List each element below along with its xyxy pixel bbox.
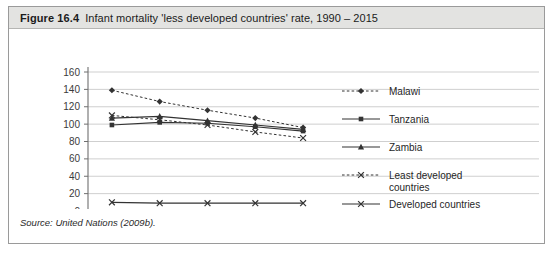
data-point-marker [252,115,258,121]
y-tick-label: 0 [74,206,80,210]
y-tick-label: 80 [69,136,81,147]
y-tick-label: 120 [63,101,80,112]
data-point-marker [300,135,306,141]
legend-label: countries [389,182,430,193]
data-point-marker [109,87,115,93]
axes [84,67,329,209]
figure-body: 020406080100120140160 1990 –19951995 –20… [9,29,544,243]
y-tick-label: 40 [69,171,81,182]
legend-label: Tanzania [389,114,429,125]
y-axis-tick-labels: 020406080100120140160 [63,67,80,210]
legend-label: Least developed [389,170,462,181]
figure-header: Figure 16.4 Infant mortality 'less devel… [9,7,544,29]
y-tick-label: 100 [63,119,80,130]
y-tick-label: 160 [63,67,80,78]
chart-svg: 020406080100120140160 1990 –19951995 –20… [9,29,546,209]
data-point-marker [110,123,115,128]
data-series [109,87,306,206]
source-note: Source: United Nations (2009b). [20,217,156,228]
figure-number: Figure 16.4 [20,12,79,24]
y-tick-label: 20 [69,188,81,199]
legend-label: Malawi [389,86,420,97]
data-point-marker [359,117,364,122]
data-point-marker [157,98,163,104]
data-point-marker [358,88,364,94]
figure-caption: Infant mortality 'less developed countri… [85,12,378,24]
y-tick-label: 140 [63,84,80,95]
figure-container: Figure 16.4 Infant mortality 'less devel… [8,6,545,244]
line-chart: 020406080100120140160 1990 –19951995 –20… [9,29,546,209]
gridlines [88,72,539,209]
data-point-marker [204,107,210,113]
y-tick-label: 60 [69,153,81,164]
legend-label: Developed countries [389,199,480,209]
legend-label: Zambia [389,142,423,153]
chart-legend: MalawiTanzaniaZambiaLeast developedcount… [342,86,480,209]
